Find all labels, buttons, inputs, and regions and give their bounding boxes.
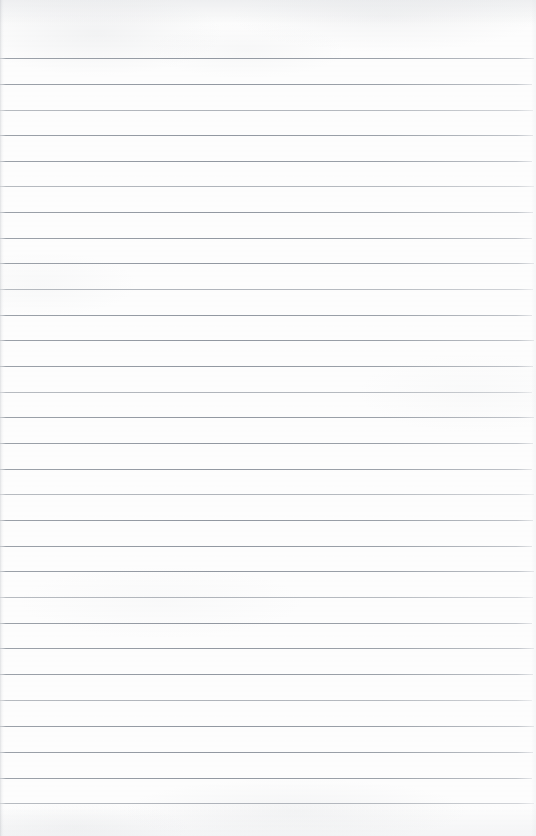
notebook-page xyxy=(0,0,536,836)
writing-area[interactable] xyxy=(0,58,536,806)
